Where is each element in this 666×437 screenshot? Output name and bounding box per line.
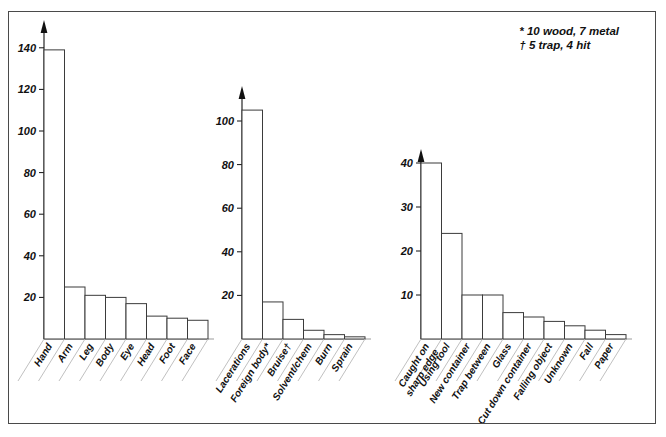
- bar-1-2: [85, 295, 106, 339]
- bar-3-1: [442, 233, 463, 339]
- y-tick-label-2-0: 20: [221, 289, 235, 301]
- y-axis-arrow-2: [239, 86, 246, 99]
- x-category-label-1-1: Arm: [54, 341, 75, 365]
- y-tick-label-3-0: 10: [401, 289, 414, 301]
- bar-3-7: [565, 326, 586, 339]
- bar-1-1: [65, 287, 86, 339]
- bar-2-4: [324, 335, 345, 339]
- y-axis-arrow-3: [418, 149, 425, 162]
- y-tick-label-1-0: 20: [23, 291, 37, 303]
- bar-3-0: [421, 163, 442, 339]
- footnote-line-2: † 5 trap, 4 hit: [519, 38, 619, 52]
- x-category-label-1-0: Hand: [32, 340, 55, 368]
- y-tick-label-1-5: 120: [18, 83, 37, 95]
- bar-charts-svg: 20406080100120140HandArmLegBodyEyeHeadFo…: [9, 12, 655, 423]
- figure-container: 20406080100120140HandArmLegBodyEyeHeadFo…: [0, 0, 666, 437]
- bar-1-5: [147, 316, 168, 339]
- bar-3-4: [503, 313, 524, 339]
- x-category-label-1-3: Body: [93, 341, 116, 368]
- y-tick-label-2-3: 80: [222, 159, 235, 171]
- bar-1-6: [167, 318, 188, 339]
- chart-panel-2: 20406080100LacerationsForeign body*Bruis…: [213, 86, 371, 404]
- bar-3-3: [483, 295, 504, 339]
- y-tick-label-2-2: 60: [222, 202, 235, 214]
- x-category-label-1-7: Face: [176, 341, 198, 367]
- bar-1-7: [188, 320, 209, 339]
- y-tick-label-2-1: 40: [221, 246, 235, 258]
- footnote-legend: * 10 wood, 7 metal † 5 trap, 4 hit: [519, 24, 619, 52]
- chart-frame: 20406080100120140HandArmLegBodyEyeHeadFo…: [8, 11, 656, 424]
- bar-1-4: [126, 304, 147, 339]
- y-tick-label-2-4: 100: [216, 115, 235, 127]
- bar-3-9: [606, 335, 627, 339]
- y-tick-label-1-1: 40: [23, 250, 37, 262]
- x-category-label-1-2: Leg: [77, 341, 96, 362]
- bar-2-5: [345, 337, 366, 339]
- chart-panel-3: 10203040Caught onsharp edgeUsing toolNew…: [394, 149, 632, 423]
- x-category-label-1-5: Head: [135, 340, 158, 367]
- x-category-label-3-8: Fall: [577, 341, 596, 362]
- y-tick-label-1-6: 140: [18, 42, 37, 54]
- y-tick-label-3-2: 30: [401, 201, 414, 213]
- bar-2-2: [283, 319, 304, 339]
- y-tick-label-1-4: 100: [18, 125, 37, 137]
- chart-panel-1: 20406080100120140HandArmLegBodyEyeHeadFo…: [18, 20, 214, 381]
- x-category-label-1-6: Foot: [157, 341, 178, 366]
- bar-1-0: [44, 50, 65, 339]
- bar-3-6: [544, 321, 565, 339]
- y-tick-label-1-3: 80: [24, 167, 37, 179]
- bar-1-3: [106, 297, 127, 339]
- bar-3-5: [524, 317, 545, 339]
- bar-2-3: [304, 330, 325, 339]
- bar-2-0: [242, 110, 263, 339]
- y-tick-label-3-3: 40: [400, 157, 414, 169]
- y-tick-label-1-2: 60: [24, 208, 37, 220]
- clipped-header-text: [14, 0, 654, 3]
- y-axis-arrow-1: [41, 20, 48, 33]
- bar-3-8: [585, 330, 606, 339]
- bar-3-2: [462, 295, 483, 339]
- y-tick-label-3-1: 20: [400, 245, 414, 257]
- bar-2-1: [263, 302, 284, 339]
- footnote-line-1: * 10 wood, 7 metal: [519, 24, 619, 38]
